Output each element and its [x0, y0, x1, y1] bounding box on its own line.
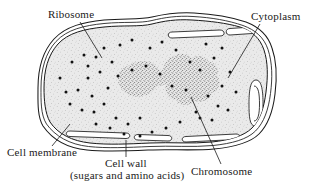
- ribosome-dot: [139, 117, 142, 120]
- ribosome-dot: [77, 89, 80, 92]
- ribosome-dot: [145, 65, 148, 68]
- ribosome-dot: [151, 131, 154, 134]
- ribosome-dot: [171, 85, 174, 88]
- ribosome-dot: [207, 95, 210, 98]
- ribosome-dot: [69, 103, 72, 106]
- ribosome-dot: [81, 109, 84, 112]
- ribosome-dot: [217, 105, 220, 108]
- ribosome-dot: [235, 91, 238, 94]
- ribosome-dot: [221, 85, 224, 88]
- ribosome-dot: [111, 61, 114, 64]
- label-cell-wall: Cell wall: [105, 158, 147, 169]
- ribosome-dot: [91, 95, 94, 98]
- label-cell-membrane: Cell membrane: [7, 147, 77, 158]
- ribosome-dot: [161, 41, 164, 44]
- ribosome-dot: [107, 87, 110, 90]
- ribosome-dot: [123, 133, 126, 136]
- ribosome-dot: [139, 135, 142, 138]
- ribosome-dot: [127, 123, 130, 126]
- ribosome-dot: [115, 117, 118, 120]
- ribosome-dot: [149, 47, 152, 50]
- ribosome-dot: [211, 119, 214, 122]
- ribosome-dot: [103, 103, 106, 106]
- label-chromosome: Chromosome: [191, 166, 252, 177]
- ribosome-dot: [131, 39, 134, 42]
- ribosome-dot: [59, 77, 62, 80]
- ribosome-dot: [109, 127, 112, 130]
- label-cytoplasm: Cytoplasm: [251, 11, 300, 22]
- ribosome-dot: [221, 47, 224, 50]
- ribosome-dot: [95, 56, 98, 59]
- ribosome-dot: [165, 127, 168, 130]
- ribosome-dot: [205, 43, 208, 46]
- ribosome-dot: [83, 54, 86, 57]
- ribosome-dot: [131, 69, 134, 72]
- ribosome-dot: [99, 71, 102, 74]
- ribosome-dot: [65, 91, 68, 94]
- ribosome-dot: [93, 111, 96, 114]
- ribosome-dot: [103, 47, 106, 50]
- ribosome-dot: [175, 49, 178, 52]
- ribosome-dot: [227, 109, 230, 112]
- ribosome-dot: [185, 89, 188, 92]
- ribosome-dot: [199, 69, 202, 72]
- label-ribosome: Ribosome: [48, 9, 94, 20]
- ribosome-dot: [117, 75, 120, 78]
- ribosome-dot: [87, 65, 90, 68]
- ribosome-dot: [87, 77, 90, 80]
- ribosome-dot: [71, 61, 74, 64]
- ribosome-dot: [159, 73, 162, 76]
- ribosome-dot: [179, 121, 182, 124]
- ribosome-dot: [189, 61, 192, 64]
- cell-diagram: Ribosome Cytoplasm Cell membrane Cell wa…: [0, 0, 311, 186]
- label-cell-wall-composition: (sugars and amino acids): [70, 170, 184, 181]
- ribosome-dot: [213, 57, 216, 60]
- ribosome-dot: [119, 44, 122, 47]
- ribosome-dot: [95, 123, 98, 126]
